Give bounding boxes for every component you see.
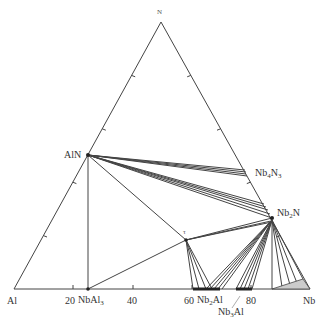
vertex-label-n: N	[157, 9, 162, 16]
phase-label-tau: τ	[183, 229, 186, 236]
phase-label-nb4n3: Nb4N3	[255, 168, 281, 180]
outer-triangle	[14, 22, 310, 289]
phase-label-nbal3: NbAl3	[78, 295, 104, 307]
nb2n-point	[270, 216, 274, 220]
tau-point	[184, 238, 188, 242]
phase-label-nb3al: Nb3Al	[218, 307, 244, 319]
phase-label-nb2n: Nb2N	[277, 208, 300, 220]
tick-label-40: 40	[127, 296, 137, 306]
vertex-label-nb: Nb	[303, 296, 315, 306]
tick-label-20: 20	[65, 296, 75, 306]
tick-label-80: 80	[246, 296, 256, 306]
ternary-diagram	[0, 0, 325, 322]
phase-label-aln: AlN	[64, 150, 81, 160]
aln-point	[86, 153, 90, 157]
vertex-label-al: Al	[7, 296, 17, 306]
tick-label-60: 60	[184, 296, 194, 306]
nbal3-point	[86, 287, 90, 291]
nb-solid-solution-region	[272, 279, 310, 289]
